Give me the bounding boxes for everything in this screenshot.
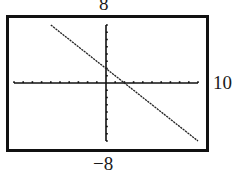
graph-plot xyxy=(0,0,237,176)
